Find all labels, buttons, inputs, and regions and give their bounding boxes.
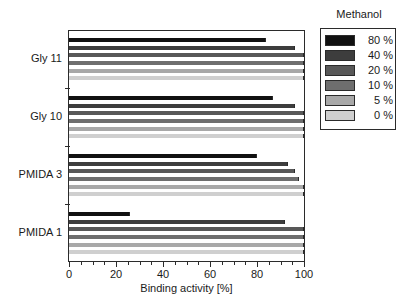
- legend-title: Methanol: [318, 8, 400, 20]
- bar[interactable]: [69, 76, 304, 80]
- bar[interactable]: [69, 111, 304, 115]
- bar[interactable]: [69, 61, 304, 65]
- x-axis-tick-label: 60: [190, 269, 230, 280]
- bar[interactable]: [69, 250, 304, 254]
- legend-swatch: [325, 80, 355, 91]
- y-axis-group-label: Gly 11: [31, 53, 62, 64]
- bar-group: [69, 205, 304, 263]
- x-axis-minor-tick: [281, 262, 282, 265]
- bar[interactable]: [69, 162, 288, 166]
- x-axis-tick-label: 20: [96, 269, 136, 280]
- x-axis-tick-label: 40: [143, 269, 183, 280]
- bar[interactable]: [69, 38, 266, 42]
- y-axis-separator-tick: [65, 146, 70, 147]
- legend-swatch: [325, 110, 355, 121]
- bar-group: [69, 89, 304, 147]
- plot-area: [68, 30, 305, 262]
- bar-group: [69, 147, 304, 205]
- legend-item-label: 5 %: [357, 95, 393, 106]
- legend-box: 80 %40 %20 %10 %5 %0 %: [320, 28, 396, 130]
- bar[interactable]: [69, 69, 304, 73]
- x-axis-minor-tick: [222, 262, 223, 265]
- y-axis-group-label: PMIDA 1: [19, 227, 62, 238]
- legend-item-label: 80 %: [357, 35, 393, 46]
- bar[interactable]: [69, 96, 273, 100]
- x-axis-major-tick: [210, 262, 211, 267]
- y-axis-group-label: Gly 10: [30, 111, 62, 122]
- x-axis-major-tick: [257, 262, 258, 267]
- bar[interactable]: [69, 227, 304, 231]
- legend-item[interactable]: 5 %: [325, 95, 393, 107]
- x-axis-minor-tick: [175, 262, 176, 265]
- legend-item[interactable]: 10 %: [325, 80, 393, 92]
- legend-swatch: [325, 35, 355, 46]
- bar[interactable]: [69, 134, 304, 138]
- x-axis-minor-tick: [234, 262, 235, 265]
- x-axis-minor-tick: [245, 262, 246, 265]
- legend-item[interactable]: 0 %: [325, 110, 393, 122]
- x-axis-minor-tick: [81, 262, 82, 265]
- y-axis-separator-tick: [65, 204, 70, 205]
- bar[interactable]: [69, 243, 304, 247]
- bar[interactable]: [69, 46, 295, 50]
- legend-item-label: 40 %: [357, 50, 393, 61]
- bar[interactable]: [69, 104, 295, 108]
- legend-item-label: 10 %: [357, 80, 393, 91]
- bar[interactable]: [69, 212, 130, 216]
- x-axis-major-tick: [163, 262, 164, 267]
- bar[interactable]: [69, 53, 304, 57]
- bar[interactable]: [69, 192, 304, 196]
- legend-item[interactable]: 80 %: [325, 35, 393, 47]
- bar[interactable]: [69, 154, 257, 158]
- x-axis-minor-tick: [151, 262, 152, 265]
- legend-item[interactable]: 40 %: [325, 50, 393, 62]
- x-axis-tick-label: 0: [49, 269, 89, 280]
- x-axis-minor-tick: [269, 262, 270, 265]
- x-axis-title: Binding activity [%]: [68, 282, 305, 294]
- legend-swatch: [325, 95, 355, 106]
- bar[interactable]: [69, 185, 304, 189]
- x-axis-minor-tick: [93, 262, 94, 265]
- x-axis-minor-tick: [292, 262, 293, 265]
- x-axis-tick-label: 100: [284, 269, 324, 280]
- x-axis-major-tick: [116, 262, 117, 267]
- x-axis-minor-tick: [198, 262, 199, 265]
- bar[interactable]: [69, 119, 304, 123]
- bar-group: [69, 31, 304, 89]
- x-axis-major-tick: [69, 262, 70, 267]
- x-axis-major-tick: [304, 262, 305, 267]
- legend-item-label: 20 %: [357, 65, 393, 76]
- legend-swatch: [325, 50, 355, 61]
- x-axis-minor-tick: [140, 262, 141, 265]
- x-axis-minor-tick: [187, 262, 188, 265]
- y-axis-separator-tick: [65, 88, 70, 89]
- legend-item-label: 0 %: [357, 110, 393, 121]
- bar[interactable]: [69, 169, 295, 173]
- bar[interactable]: [69, 177, 299, 181]
- x-axis-minor-tick: [128, 262, 129, 265]
- x-axis-tick-label: 80: [237, 269, 277, 280]
- legend-item[interactable]: 20 %: [325, 65, 393, 77]
- bar[interactable]: [69, 127, 304, 131]
- bar[interactable]: [69, 235, 304, 239]
- x-axis-minor-tick: [104, 262, 105, 265]
- bar[interactable]: [69, 220, 285, 224]
- legend-swatch: [325, 65, 355, 76]
- bar-chart-figure: Gly 11Gly 10PMIDA 3PMIDA 1020406080100 B…: [0, 0, 402, 304]
- y-axis-group-label: PMIDA 3: [19, 169, 62, 180]
